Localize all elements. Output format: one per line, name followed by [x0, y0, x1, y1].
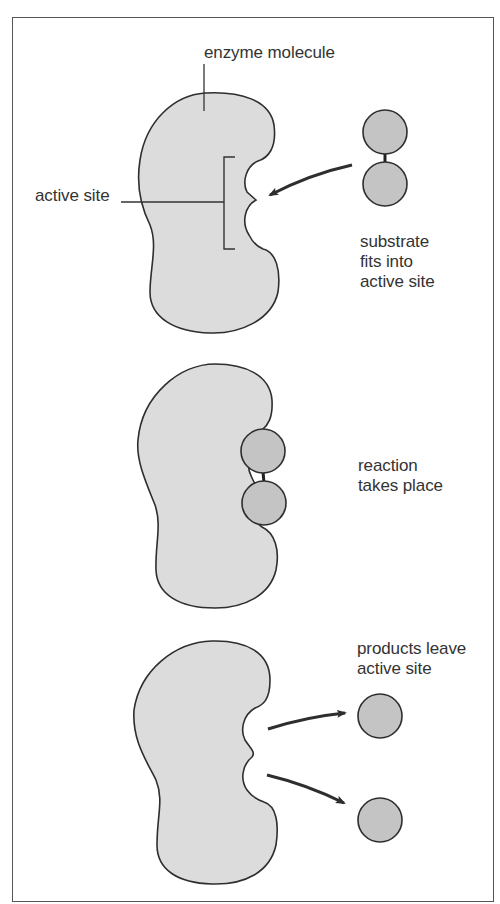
enzyme-molecule-label: enzyme molecule	[204, 43, 335, 63]
product-top-circle	[358, 694, 402, 738]
product-bottom-circle	[358, 798, 402, 842]
bound-substrate-top-circle	[241, 429, 285, 473]
panel-substrate-binding	[121, 64, 407, 333]
substrate-top-circle	[363, 110, 407, 154]
bound-substrate-bottom-circle	[242, 481, 286, 525]
substrate-bottom-circle	[363, 162, 407, 206]
panel-reaction	[138, 364, 286, 608]
active-site-label: active site	[35, 186, 110, 206]
caption-line: active site	[357, 659, 432, 679]
binding-arrow-icon	[270, 165, 352, 195]
product-arrow-bottom-icon	[267, 775, 344, 803]
caption-line: fits into	[360, 252, 413, 272]
caption-line: active site	[360, 272, 435, 292]
product-arrow-top-icon	[268, 713, 345, 729]
caption-line: products leave	[357, 639, 466, 659]
enzyme-molecule-shape	[134, 641, 277, 884]
caption-line: substrate	[360, 232, 429, 252]
enzyme-diagram	[0, 0, 500, 904]
caption-line: reaction	[358, 456, 418, 476]
caption-line: takes place	[358, 476, 443, 496]
enzyme-molecule-shape	[138, 93, 278, 333]
